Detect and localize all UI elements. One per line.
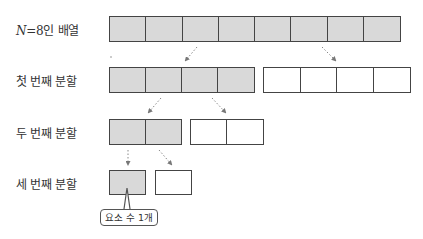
- arrow-split-right: [159, 150, 171, 164]
- arrow-split-left: [149, 98, 161, 112]
- arrow-split-right: [212, 98, 225, 112]
- arrow-split-left: [186, 47, 197, 60]
- split-arrows: [0, 0, 423, 239]
- callout-element-count: 요소 수 1개: [100, 209, 158, 226]
- callout-pointer: [124, 188, 130, 209]
- arrow-split-right: [322, 47, 335, 60]
